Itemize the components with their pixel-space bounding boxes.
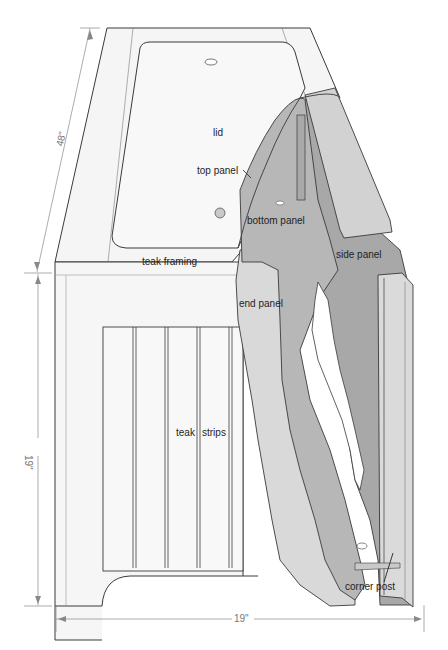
label-side-panel: side panel xyxy=(336,250,382,260)
label-bottom-panel: bottom panel xyxy=(247,216,305,226)
label-teak-framing: teak framing xyxy=(142,257,197,267)
dimension-height: 19" xyxy=(23,455,33,470)
bottom-arch xyxy=(102,576,290,650)
label-corner-post: corner post xyxy=(345,582,395,592)
bench-illustration xyxy=(0,0,448,650)
strip-panel xyxy=(103,327,243,571)
label-end-panel: end panel xyxy=(239,299,283,309)
bench-cutaway-diagram: lid top panel bottom panel side panel te… xyxy=(0,0,448,650)
bottom-drain-hole xyxy=(357,543,367,549)
lid-hinge-hole xyxy=(215,208,225,218)
corner-post-shape xyxy=(378,273,413,607)
label-lid: lid xyxy=(213,128,223,138)
lid-finger-hole xyxy=(205,59,217,65)
label-strips: strips xyxy=(202,428,226,438)
label-top-panel: top panel xyxy=(197,166,238,176)
dimension-width: 19" xyxy=(234,614,249,624)
label-teak: teak xyxy=(176,428,195,438)
